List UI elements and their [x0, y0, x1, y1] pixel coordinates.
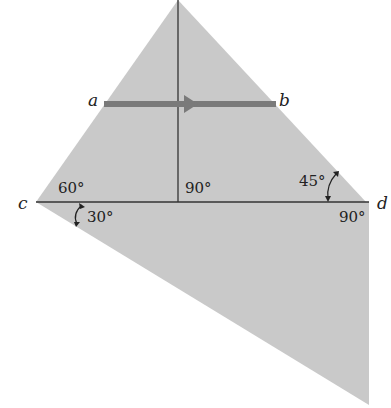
- angle-label-45: 45°: [299, 172, 326, 190]
- angle-label-90-upper: 90°: [185, 179, 212, 197]
- angle-label-30: 30°: [87, 208, 114, 226]
- lower-prism: [36, 202, 369, 405]
- point-label-b: b: [279, 90, 290, 110]
- prism-diagram: a b c d 60° 90° 45° 30° 90°: [0, 0, 391, 408]
- point-label-d: d: [377, 193, 388, 213]
- point-label-c: c: [18, 193, 28, 213]
- angle-label-90-lower: 90°: [339, 208, 366, 226]
- point-label-a: a: [88, 90, 98, 110]
- angle-label-60: 60°: [58, 179, 85, 197]
